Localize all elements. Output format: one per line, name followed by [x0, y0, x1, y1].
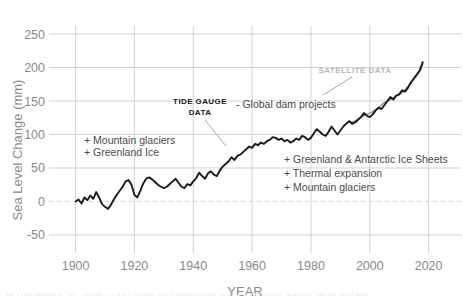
cut-off-caption-text: a measure of sea level rise in millimetr…: [0, 293, 463, 299]
annotation-greenland-ice-left: + Greenland Ice: [84, 146, 159, 158]
y-tick-label: 0: [38, 195, 45, 209]
sea-level-change-line-chart: -50050100150200250 190019201940196019802…: [0, 0, 463, 304]
annotation-tide-gauge-data: TIDE GAUGE: [173, 97, 227, 106]
chart-figure: -50050100150200250 190019201940196019802…: [0, 0, 463, 304]
annotation-mountain-glaciers-right: + Mountain glaciers: [284, 181, 375, 193]
y-tick-label: 150: [24, 95, 45, 109]
y-tick-label: -50: [27, 228, 45, 242]
annotation-mountain-glaciers-left: + Mountain glaciers: [84, 134, 175, 146]
x-tick-label: 1980: [297, 259, 325, 273]
y-tick-label: 50: [31, 161, 45, 175]
x-tick-label: 1960: [238, 259, 266, 273]
annotation-satellite-data: SATELLITE DATA: [318, 66, 391, 75]
x-tick-label: 2000: [356, 259, 384, 273]
y-axis-title: Sea Level Change (mm): [10, 80, 25, 221]
cut-off-caption: a measure of sea level rise in millimetr…: [0, 293, 463, 304]
x-tick-label: 2020: [415, 259, 443, 273]
annotation-tide-gauge-data-line2: DATA: [189, 108, 212, 117]
y-tick-label: 250: [24, 28, 45, 42]
x-tick-label: 1940: [179, 259, 207, 273]
annotation-global-dam-projects: - Global dam projects: [236, 98, 336, 110]
annotation-thermal-expansion: + Thermal expansion: [284, 167, 382, 179]
x-tick-label: 1920: [121, 259, 149, 273]
y-tick-label: 100: [24, 128, 45, 142]
x-tick-label: 1900: [62, 259, 90, 273]
y-tick-label: 200: [24, 61, 45, 75]
annotation-greenland-antarctic-ice-sheets: + Greenland & Antarctic Ice Sheets: [284, 153, 448, 165]
